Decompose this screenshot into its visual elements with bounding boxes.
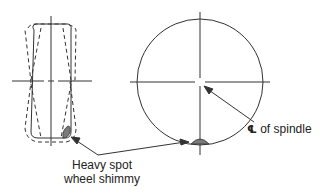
- front-view: [12, 16, 92, 146]
- spindle-label-text: of spindle: [257, 122, 312, 136]
- heavy-leader-right: [98, 142, 185, 155]
- heavy-arrowhead-left: [71, 137, 80, 144]
- heavy-spot-label-line1: Heavy spot: [54, 158, 150, 172]
- centerline-symbol: ℄: [247, 123, 257, 136]
- diagram-canvas: [0, 0, 332, 192]
- spindle-arrowhead: [204, 86, 213, 94]
- heavy-spot-side: [191, 139, 209, 144]
- spindle-centerline-label: ℄ of spindle: [247, 122, 312, 137]
- heavy-spot-label-line2: wheel shimmy: [54, 172, 150, 186]
- heavy-spot-label: Heavy spot wheel shimmy: [54, 158, 150, 186]
- spindle-leader: [206, 88, 254, 122]
